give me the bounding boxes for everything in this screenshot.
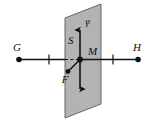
plane-s-shape bbox=[65, 4, 101, 118]
figure-container: G H M S P F bbox=[0, 0, 153, 126]
label-s: S bbox=[68, 34, 74, 46]
label-m: M bbox=[87, 45, 98, 57]
point-g-dot bbox=[16, 57, 22, 63]
geometry-diagram: G H M S P F bbox=[0, 0, 153, 126]
label-h: H bbox=[132, 41, 142, 53]
point-h-dot bbox=[135, 57, 141, 63]
point-m-dot bbox=[77, 57, 83, 63]
label-g: G bbox=[13, 41, 21, 53]
label-f: F bbox=[61, 73, 69, 85]
